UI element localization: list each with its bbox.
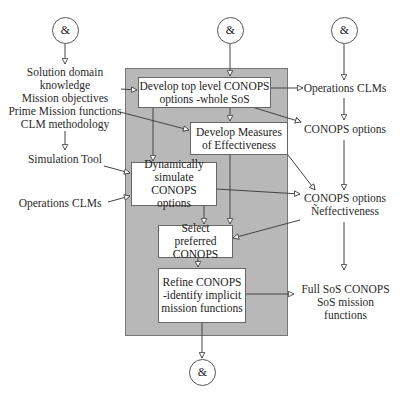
connector-top-right: & (331, 17, 358, 44)
box-line: simulate CONOPS (132, 171, 216, 197)
box-line: Select preferred (159, 222, 232, 248)
box-refine-conops: Refine CONOPS -identify implicit mission… (158, 268, 246, 323)
connector-symbol: & (340, 23, 349, 38)
output-line: SoS mission (298, 296, 393, 309)
input-solution-domain: Solution domain (5, 66, 125, 79)
output-conops-effectiveness: CONOPS options Ñeffectiveness (300, 192, 390, 218)
box-line: options (132, 197, 216, 210)
output-line: CONOPS options (300, 192, 390, 205)
input-operations-clms: Operations CLMs (15, 197, 105, 210)
input-knowledge-block: Solution domain knowledge Mission object… (5, 66, 125, 131)
input-clm-methodology: CLM methodology (5, 118, 125, 131)
box-line: Dynamically (132, 158, 216, 171)
input-simulation-tool: Simulation Tool (15, 153, 115, 166)
input-knowledge: knowledge (5, 79, 125, 92)
output-line: Ñeffectiveness (300, 205, 390, 218)
connector-top-middle: & (217, 17, 244, 44)
connector-symbol: & (198, 365, 207, 380)
box-line: Develop Measures (196, 126, 282, 139)
box-line: Develop top level CONOPS (139, 80, 269, 93)
box-line: Refine CONOPS (161, 276, 242, 289)
box-dynamically-simulate: Dynamically simulate CONOPS options (131, 162, 217, 206)
connector-bottom: & (189, 359, 216, 386)
input-prime-mission-functions: Prime Mission functions (5, 105, 125, 118)
connector-top-left: & (52, 17, 79, 44)
output-full-sos: Full SoS CONOPS SoS mission functions (298, 283, 393, 322)
input-mission-objectives: Mission objectives (5, 92, 125, 105)
box-line: options -whole SoS (139, 93, 269, 106)
output-line: functions (298, 309, 393, 322)
connector-symbol: & (226, 23, 235, 38)
box-develop-top-level: Develop top level CONOPS options -whole … (138, 77, 271, 108)
box-select-preferred: Select preferred CONOPS (158, 225, 233, 258)
box-line: of Effectiveness (196, 139, 282, 152)
output-line: Full SoS CONOPS (298, 283, 393, 296)
output-operations-clms: Operations CLMs (302, 82, 388, 95)
connector-symbol: & (61, 23, 70, 38)
box-line: mission functions (161, 302, 242, 315)
box-develop-measures: Develop Measures of Effectiveness (190, 122, 288, 155)
box-line: -identify implicit (161, 289, 242, 302)
box-line: CONOPS (159, 248, 232, 261)
output-conops-options: CONOPS options (300, 123, 390, 136)
